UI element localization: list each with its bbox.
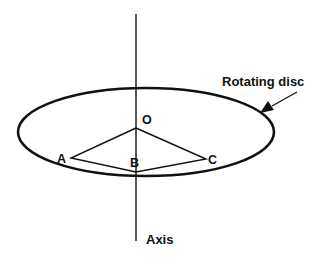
point-label-b: B bbox=[130, 156, 139, 170]
pointer-arrow-line bbox=[272, 92, 297, 106]
point-label-a: A bbox=[57, 152, 66, 166]
point-label-c: C bbox=[208, 153, 217, 167]
pointer-arrowhead-icon bbox=[260, 101, 274, 113]
point-label-o: O bbox=[142, 113, 152, 127]
rotating-disc-label: Rotating disc bbox=[222, 74, 304, 89]
rotating-disc-diagram: Rotating disc O A B C Axis bbox=[0, 0, 335, 270]
axis-label: Axis bbox=[146, 232, 173, 247]
